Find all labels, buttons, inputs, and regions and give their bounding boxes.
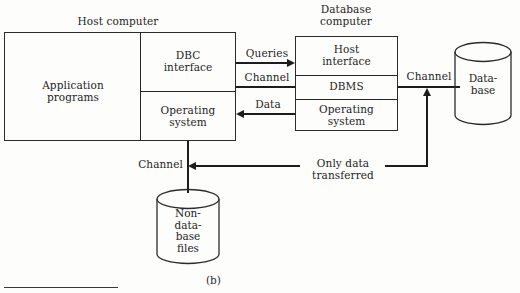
only-data-vertical-line: [426, 96, 428, 166]
data-label: Data: [240, 99, 296, 111]
only-data-up-arrowhead-icon: [423, 88, 431, 96]
channel-host-files-line: [187, 141, 189, 193]
queries-line: [236, 62, 287, 64]
footnote-rule: [4, 287, 118, 288]
db-operating-system-label: Operating system: [297, 104, 396, 127]
database-cylinder-label: Data- base: [453, 73, 513, 96]
channel-host-files-label: Channel: [127, 159, 183, 171]
channel-host-db-line: [236, 86, 295, 88]
only-data-right-segment: [385, 165, 428, 167]
queries-label: Queries: [238, 48, 296, 60]
host-right-column-divider: [140, 91, 236, 92]
data-line: [244, 113, 295, 115]
channel-host-db-label: Channel: [238, 72, 296, 84]
host-interface-label: Host interface: [297, 44, 396, 67]
figure-caption: (b): [206, 274, 221, 286]
figure-canvas: Host computer Database computer Applicat…: [0, 0, 520, 293]
channel-db-storage-label: Channel: [400, 71, 458, 83]
only-data-left-segment: [196, 165, 300, 167]
database-cylinder: Data- base: [453, 41, 513, 127]
queries-arrowhead-icon: [287, 59, 295, 67]
application-programs-label: Application programs: [14, 80, 132, 103]
data-arrowhead-icon: [236, 110, 244, 118]
database-computer-title: Database computer: [300, 4, 392, 27]
dbc-interface-label: DBC interface: [143, 50, 233, 73]
non-database-files-cylinder: Non- data- base files: [155, 188, 221, 266]
host-internal-divider: [140, 32, 141, 141]
only-data-transferred-label: Only data transferred: [304, 158, 382, 181]
db-divider-dbms-os: [295, 99, 398, 100]
dbms-label: DBMS: [297, 81, 396, 93]
host-computer-title: Host computer: [58, 16, 178, 28]
host-operating-system-label: Operating system: [143, 105, 233, 128]
only-data-left-arrowhead-icon: [188, 162, 196, 170]
db-divider-host-dbms: [295, 75, 398, 76]
non-database-files-label: Non- data- base files: [155, 208, 221, 254]
